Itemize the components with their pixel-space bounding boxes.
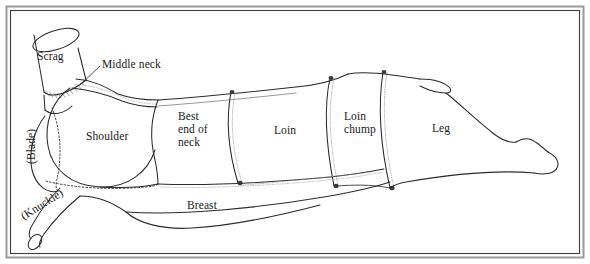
lamb-cuts-figure: Scrag Middle neck Shoulder (Blade) (Knuc… xyxy=(0,0,590,264)
label-best-end-of-neck: Best end of neck xyxy=(178,110,208,149)
label-loin: Loin xyxy=(274,124,296,137)
label-shoulder: Shoulder xyxy=(86,130,128,143)
label-middle-neck: Middle neck xyxy=(102,58,161,71)
label-blade: (Blade) xyxy=(25,120,38,172)
label-breast: Breast xyxy=(187,199,217,212)
label-leg: Leg xyxy=(432,122,450,135)
label-scrag: Scrag xyxy=(37,50,64,63)
label-loin-chump: Loin chump xyxy=(344,110,376,136)
